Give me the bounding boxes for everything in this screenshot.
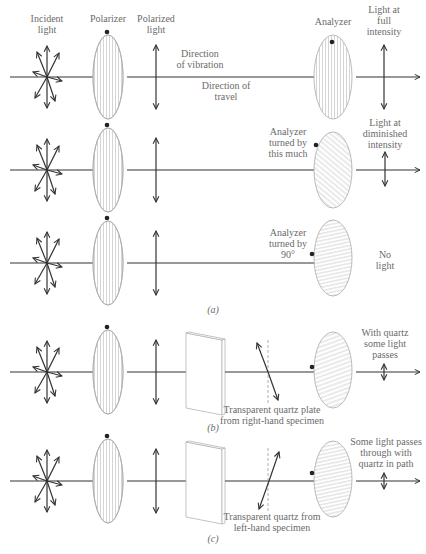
no-light-label: Nolight bbox=[376, 249, 395, 271]
analyzer-turned-90-label: Analyzerturned by90° bbox=[269, 227, 307, 260]
row-full-intensity: Directionof vibration Direction oftravel bbox=[10, 30, 420, 119]
analyzer-icon bbox=[314, 35, 352, 119]
row-no-light: Analyzerturned by90° Nolight bbox=[10, 216, 394, 305]
polarizer-icon bbox=[93, 325, 123, 414]
caption-c: (c) bbox=[207, 533, 219, 545]
caption-b: (b) bbox=[207, 422, 219, 434]
quartz-plate-icon bbox=[186, 441, 225, 524]
some-light-passes-label: Some light passesthrough withquartz in p… bbox=[350, 436, 422, 469]
polarizer-icon bbox=[93, 123, 123, 212]
analyzer-turned-label: Analyzerturned bythis much bbox=[268, 126, 307, 159]
quartz-right-hand-label: Transparent quartz platefrom right-hand … bbox=[220, 404, 324, 426]
diminished-intensity-label: Light atdiminishedintensity bbox=[363, 117, 407, 150]
panel-c: Some light passesthrough withquartz in p… bbox=[10, 434, 422, 545]
direction-of-travel-label: Direction oftravel bbox=[202, 80, 251, 102]
quartz-left-hand-label: Transparent quartz fromleft-hand specime… bbox=[224, 511, 321, 533]
panel-b: With quartzsome lightpasses Transparent … bbox=[10, 325, 420, 434]
polarizer-icon bbox=[93, 216, 123, 305]
analyzer-label: Analyzer bbox=[315, 16, 352, 27]
quartz-plate-icon bbox=[186, 332, 225, 415]
full-intensity-label: Light atfullintensity bbox=[367, 4, 401, 37]
polarizer-icon bbox=[93, 434, 123, 523]
with-quartz-label: With quartzsome lightpasses bbox=[361, 327, 409, 360]
direction-of-vibration-label: Directionof vibration bbox=[177, 48, 224, 70]
polarizer-icon bbox=[93, 30, 123, 119]
polarization-diagram: Incidentlight Polarizer Polarizedlight A… bbox=[0, 0, 426, 554]
analyzer-90-icon bbox=[310, 220, 352, 296]
analyzer-rotated-icon bbox=[314, 132, 352, 208]
polarizer-label: Polarizer bbox=[90, 13, 127, 24]
analyzer-90-icon bbox=[310, 441, 352, 517]
polarized-light-label: Polarizedlight bbox=[137, 13, 175, 35]
caption-a: (a) bbox=[207, 304, 219, 316]
analyzer-90-icon bbox=[310, 332, 352, 408]
panel-a: Incidentlight Polarizer Polarizedlight A… bbox=[10, 4, 420, 316]
incident-light-label: Incidentlight bbox=[31, 13, 64, 35]
row-diminished-intensity: Analyzerturned bythis much Light atdimin… bbox=[10, 117, 420, 212]
